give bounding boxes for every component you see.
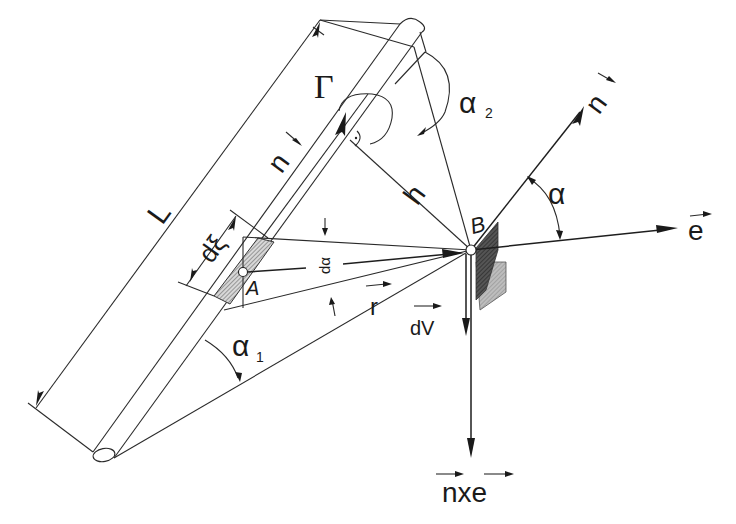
label-A: A xyxy=(245,277,259,299)
vector-e-arrowhead[interactable] xyxy=(656,225,678,233)
geometry-lines xyxy=(114,20,471,458)
label-h: h xyxy=(397,179,431,210)
vector-nxe-arrowhead[interactable] xyxy=(467,438,475,458)
label-dV: dV xyxy=(410,317,435,339)
point-B xyxy=(466,245,476,255)
point-A xyxy=(239,268,248,277)
label-n-rod: n xyxy=(261,147,295,178)
label-B: B xyxy=(467,211,488,239)
label-L: L xyxy=(140,197,177,230)
label-alpha1: α xyxy=(232,329,249,362)
vector-n-arrowhead[interactable] xyxy=(572,106,584,126)
label-gamma: Γ xyxy=(314,68,334,105)
label-alpha2-sub: 2 xyxy=(485,105,493,121)
vector-dV-arrowhead[interactable] xyxy=(462,318,470,336)
filament-direction-arrowhead xyxy=(335,112,346,136)
label-dxi: dξ xyxy=(192,229,232,268)
label-r: r xyxy=(370,293,378,320)
label-e: e xyxy=(688,215,704,246)
label-alpha: α xyxy=(548,177,565,210)
label-dalpha: dα xyxy=(316,257,333,274)
vector-e-line xyxy=(471,229,670,250)
label-alpha1-sub: 1 xyxy=(256,349,264,365)
label-n-right: n xyxy=(579,88,613,119)
vortex-filament-diagram: L dξ Γ n α 2 h xyxy=(0,0,736,524)
label-nxe: nxe xyxy=(442,477,487,508)
label-alpha2: α xyxy=(459,86,476,119)
